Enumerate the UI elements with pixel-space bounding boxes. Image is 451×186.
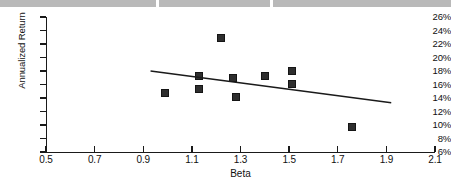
scatter-chart: 26%24%22%20%18%16%14%12%10%8%6% 0.50.70.… bbox=[0, 0, 451, 186]
trendline bbox=[0, 0, 451, 186]
